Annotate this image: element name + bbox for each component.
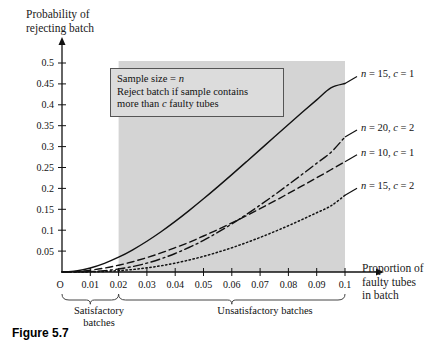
- svg-text:0.09: 0.09: [308, 279, 326, 290]
- svg-text:0.1: 0.1: [339, 279, 352, 290]
- curve-label-15-2: n = 15, c = 2: [361, 180, 414, 191]
- annotation-line-1: Sample size = n: [117, 73, 277, 86]
- svg-text:0.25: 0.25: [37, 162, 55, 173]
- figure-caption: Figure 5.7: [12, 326, 69, 340]
- curve-label-15-1: n = 15, c = 1: [361, 68, 414, 79]
- svg-text:0.05: 0.05: [195, 279, 213, 290]
- unsatisfactory-batches-label: Unsatisfactory batches: [175, 305, 355, 317]
- curve-label-10-1: n = 10, c = 1: [361, 147, 414, 158]
- svg-text:0.2: 0.2: [42, 183, 55, 194]
- svg-text:0.01: 0.01: [82, 279, 100, 290]
- svg-text:0.03: 0.03: [138, 279, 156, 290]
- annotation-var-n: n: [179, 73, 184, 84]
- svg-text:0.5: 0.5: [42, 57, 55, 68]
- annotation-line-2: Reject batch if sample contains: [117, 86, 277, 99]
- annotation-box: Sample size = n Reject batch if sample c…: [110, 68, 284, 117]
- svg-text:0.15: 0.15: [37, 204, 55, 215]
- svg-text:O: O: [56, 279, 63, 290]
- annotation-line-3: more than c faulty tubes: [117, 98, 277, 111]
- svg-text:0.08: 0.08: [280, 279, 298, 290]
- svg-text:0.35: 0.35: [37, 120, 55, 131]
- y-axis-title: Probability of rejecting batch: [26, 8, 94, 35]
- svg-text:0.06: 0.06: [223, 279, 241, 290]
- svg-text:0.02: 0.02: [110, 279, 128, 290]
- x-axis-title: Proportion of faulty tubes in batch: [362, 262, 424, 303]
- figure-5-7: 0.050.10.150.20.250.30.350.40.450.50.010…: [0, 0, 443, 352]
- svg-text:0.3: 0.3: [42, 141, 55, 152]
- curve-label-20-2: n = 20, c = 2: [361, 122, 414, 133]
- svg-text:0.07: 0.07: [251, 279, 269, 290]
- svg-text:0.4: 0.4: [42, 99, 55, 110]
- svg-text:0.45: 0.45: [37, 78, 55, 89]
- svg-text:0.1: 0.1: [42, 225, 55, 236]
- svg-text:0.05: 0.05: [37, 246, 55, 257]
- svg-text:0.04: 0.04: [166, 279, 184, 290]
